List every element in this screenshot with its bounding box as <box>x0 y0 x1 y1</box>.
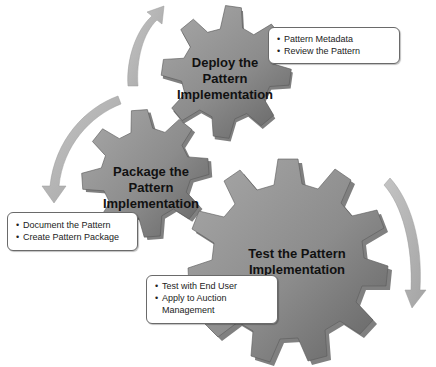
callout-test-item: Apply to Auction <box>155 292 269 304</box>
gear-deploy-label-line-2: Pattern <box>170 71 280 87</box>
arrow-up-right-icon <box>128 6 164 86</box>
callout-deploy-item: Pattern Metadata <box>277 33 391 45</box>
gear-package-label-line-1: Package the <box>96 164 206 180</box>
callout-deploy-item: Review the Pattern <box>277 45 391 57</box>
gear-package-label-line-2: Pattern <box>96 180 206 196</box>
callout-test: Test with End User Apply to Auction Mana… <box>146 275 278 324</box>
gear-package-label: Package the Pattern Implementation <box>96 164 206 212</box>
callout-deploy: Pattern Metadata Review the Pattern <box>268 27 400 64</box>
gear-test-label-line-1: Test the Pattern <box>232 246 362 262</box>
callout-package: Document the Pattern Create Pattern Pack… <box>7 212 138 251</box>
arrow-down-icon <box>384 178 426 308</box>
gear-test-label: Test the Pattern Implementation <box>232 246 362 278</box>
callout-test-item: Test with End User <box>155 280 269 292</box>
gear-deploy-label-line-3: Implementation <box>170 87 280 103</box>
callout-test-item-continuation: Management <box>155 304 269 316</box>
gear-deploy-label-line-1: Deploy the <box>170 55 280 71</box>
gear-deploy-label: Deploy the Pattern Implementation <box>170 55 280 103</box>
callout-package-item: Create Pattern Package <box>16 231 129 243</box>
callout-package-item: Document the Pattern <box>16 219 129 231</box>
gear-package-label-line-3: Implementation <box>96 196 206 212</box>
